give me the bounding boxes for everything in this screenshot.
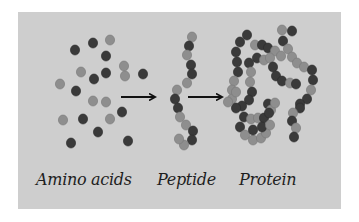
bead-light [76, 67, 85, 77]
bead-dark [233, 67, 242, 77]
bead-dark [289, 132, 298, 142]
bead-light [277, 25, 286, 35]
bead-dark [187, 135, 196, 145]
bead-dark [277, 76, 286, 86]
peptide-chain-beads [170, 32, 197, 150]
amino-acid-beads [55, 35, 147, 148]
bead-dark [71, 86, 80, 96]
bead-light [182, 50, 191, 60]
bead-light [120, 71, 129, 81]
bead-light [276, 51, 285, 61]
bead-light [105, 35, 114, 45]
bead-light [174, 134, 183, 144]
bead-dark [257, 122, 266, 132]
bead-light [246, 67, 255, 77]
bead-dark [101, 51, 110, 61]
bead-dark [244, 58, 253, 68]
bead-light [240, 130, 249, 140]
bead-dark [308, 75, 317, 85]
bead-light [88, 96, 97, 106]
bead-light [265, 120, 274, 130]
bead-light [229, 76, 238, 86]
bead-dark [66, 138, 75, 148]
bead-dark [291, 79, 300, 89]
bead-dark [268, 62, 277, 72]
bead-light [248, 135, 257, 145]
bead-dark [78, 114, 87, 124]
bead-light [187, 32, 196, 42]
bead-light [223, 97, 232, 107]
bead-dark [188, 126, 197, 136]
bead-dark [184, 41, 193, 51]
bead-dark [173, 103, 182, 113]
bead-dark [138, 69, 147, 79]
bead-dark [307, 65, 316, 75]
bead-dark [170, 94, 179, 104]
bead-light [306, 85, 315, 95]
bead-dark [231, 103, 240, 113]
bead-dark [93, 127, 102, 137]
bead-dark [89, 74, 98, 84]
protein-chain-beads [223, 25, 317, 145]
bead-light [55, 79, 64, 89]
bead-dark [235, 37, 244, 47]
bead-dark [231, 47, 240, 57]
bead-light [172, 85, 181, 95]
bead-dark [186, 60, 195, 70]
bead-dark [264, 108, 273, 118]
bead-light [58, 115, 67, 125]
label-amino-acids: Amino acids [36, 170, 132, 189]
bead-dark [232, 57, 241, 67]
bead-light [182, 78, 191, 88]
bead-light [245, 77, 254, 87]
bead-light [101, 97, 110, 107]
bead-light [231, 87, 240, 97]
bead-dark [123, 136, 132, 146]
bead-dark [70, 45, 79, 55]
bead-dark [88, 38, 97, 48]
bead-dark [117, 107, 126, 117]
bead-dark [242, 30, 251, 40]
bead-dark [287, 26, 296, 36]
label-protein: Protein [239, 170, 296, 189]
bead-light [291, 123, 300, 133]
bead-light [175, 112, 184, 122]
bead-light [265, 53, 274, 63]
label-peptide: Peptide [157, 170, 216, 189]
bead-dark [187, 69, 196, 79]
bead-dark [101, 68, 110, 78]
bead-light [270, 98, 279, 108]
bead-light [119, 61, 128, 71]
bead-light [105, 114, 114, 124]
bead-dark [248, 125, 257, 135]
